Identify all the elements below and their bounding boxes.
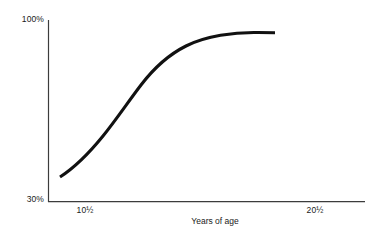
x-axis-tick-label-right: 20½	[307, 206, 324, 215]
x-axis-tick-label-left: 10½	[77, 206, 94, 215]
chart-plot-area	[0, 0, 372, 237]
growth-curve-line	[60, 32, 275, 177]
chart-container: 100% 30% 10½ 20½ Years of age	[0, 0, 372, 237]
y-axis-tick-label-bottom: 30%	[27, 195, 44, 204]
x-axis-title: Years of age	[191, 217, 238, 226]
y-axis-tick-label-top: 100%	[22, 15, 44, 24]
